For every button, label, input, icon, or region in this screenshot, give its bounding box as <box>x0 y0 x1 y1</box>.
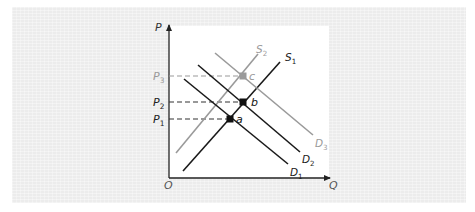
curve-label-s1: S1 <box>285 51 296 66</box>
point-label-a: a <box>236 113 243 126</box>
curve-label-d1: D1 <box>290 166 303 181</box>
equilibrium-point-a <box>227 116 234 123</box>
equilibrium-point-c <box>240 73 247 80</box>
curve-label-d2: D2 <box>302 153 315 168</box>
curve-d3 <box>215 53 313 135</box>
price-label-a: P1 <box>153 113 165 128</box>
point-label-b: b <box>251 96 258 109</box>
curves <box>176 53 313 171</box>
supply-demand-diagram: PQOP1P2P3S1S2D1D2D3abc <box>0 0 475 212</box>
x-axis-label: Q <box>329 179 338 192</box>
price-label-b: P2 <box>153 96 164 111</box>
y-axis-label: P <box>155 21 162 34</box>
origin-label: O <box>164 179 173 192</box>
price-label-c: P3 <box>153 70 165 85</box>
curve-label-s2: S2 <box>256 43 267 58</box>
point-label-c: c <box>249 70 255 83</box>
equilibrium-point-b <box>240 99 247 106</box>
curve-label-d3: D3 <box>315 137 328 152</box>
